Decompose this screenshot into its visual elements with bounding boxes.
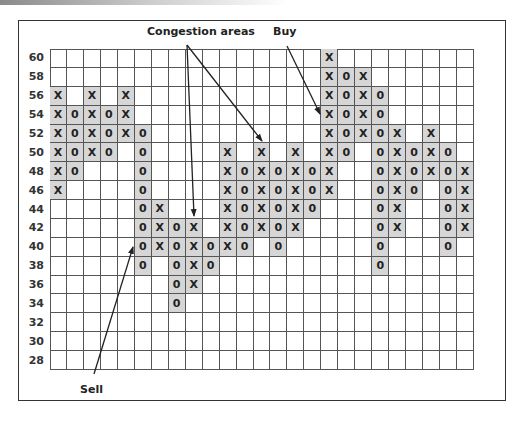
grid-cell <box>423 257 440 276</box>
grid-cell <box>270 125 287 144</box>
grid-cell <box>270 49 287 68</box>
grid-cell <box>304 87 321 106</box>
grid-cell <box>440 87 457 106</box>
grid-cell <box>84 257 101 276</box>
o-box: 0 <box>135 238 152 257</box>
grid-cell <box>118 219 135 238</box>
grid-cell <box>237 276 254 295</box>
grid-cell <box>389 351 406 370</box>
grid-cell <box>270 351 287 370</box>
grid-cell <box>457 49 474 68</box>
o-box: 0 <box>135 219 152 238</box>
x-box: X <box>457 219 474 238</box>
grid-cell <box>220 125 237 144</box>
grid-cell <box>423 332 440 351</box>
grid-cell <box>118 200 135 219</box>
grid-cell <box>304 332 321 351</box>
grid-cell <box>254 125 271 144</box>
grid-cell <box>152 87 169 106</box>
grid-cell <box>270 313 287 332</box>
grid-cell <box>50 219 67 238</box>
grid-cell <box>50 257 67 276</box>
grid-cell <box>304 313 321 332</box>
grid-cell <box>169 332 186 351</box>
o-box: 0 <box>135 257 152 276</box>
grid-cell <box>372 49 389 68</box>
grid-cell <box>457 257 474 276</box>
grid-cell <box>84 219 101 238</box>
y-tick-label: 30 <box>18 335 44 348</box>
grid-cell <box>118 332 135 351</box>
grid-cell <box>135 294 152 313</box>
grid-cell <box>321 351 338 370</box>
grid-cell <box>50 68 67 87</box>
grid-cell <box>406 294 423 313</box>
o-box: 0 <box>440 200 457 219</box>
o-box: 0 <box>406 162 423 181</box>
x-box: X <box>457 200 474 219</box>
grid-cell <box>50 294 67 313</box>
o-box: 0 <box>338 125 355 144</box>
grid-cell <box>254 257 271 276</box>
grid-cell <box>186 200 203 219</box>
grid-cell <box>135 313 152 332</box>
grid-cell <box>423 219 440 238</box>
grid-cell <box>457 294 474 313</box>
grid-cell <box>152 68 169 87</box>
x-box: X <box>50 125 67 144</box>
x-box: X <box>118 87 135 106</box>
grid-cell <box>423 68 440 87</box>
grid-cell <box>440 257 457 276</box>
x-box: X <box>389 125 406 144</box>
grid-cell <box>50 200 67 219</box>
grid-cell <box>287 68 304 87</box>
x-box: X <box>152 200 169 219</box>
grid-cell <box>220 68 237 87</box>
grid-cell <box>304 125 321 144</box>
grid-cell <box>423 276 440 295</box>
grid-cell <box>423 294 440 313</box>
grid-cell <box>84 49 101 68</box>
grid-cell <box>101 49 118 68</box>
grid-cell <box>270 276 287 295</box>
x-box: X <box>423 162 440 181</box>
grid-cell <box>321 238 338 257</box>
o-box: 0 <box>169 276 186 295</box>
x-box: X <box>457 181 474 200</box>
grid-cell <box>203 219 220 238</box>
grid-cell <box>135 332 152 351</box>
x-box: X <box>50 87 67 106</box>
x-box: X <box>50 162 67 181</box>
grid-cell <box>152 332 169 351</box>
grid-cell <box>287 125 304 144</box>
grid-cell <box>118 257 135 276</box>
x-box: X <box>389 181 406 200</box>
grid-cell <box>203 294 220 313</box>
grid-cell <box>101 332 118 351</box>
x-box: X <box>254 219 271 238</box>
sell-label: Sell <box>80 383 103 396</box>
grid-cell <box>101 87 118 106</box>
grid-cell <box>321 200 338 219</box>
grid-cell <box>118 351 135 370</box>
o-box: 0 <box>440 181 457 200</box>
grid-cell <box>457 276 474 295</box>
grid-cell <box>135 49 152 68</box>
grid-cell <box>186 294 203 313</box>
grid-cell <box>186 313 203 332</box>
grid-cell <box>270 143 287 162</box>
buy-label: Buy <box>273 25 296 38</box>
x-box: X <box>84 143 101 162</box>
grid-cell <box>457 238 474 257</box>
grid-cell <box>186 143 203 162</box>
o-box: 0 <box>67 162 84 181</box>
grid-cell <box>169 49 186 68</box>
grid-cell <box>372 68 389 87</box>
grid-cell <box>50 332 67 351</box>
grid-cell <box>270 332 287 351</box>
x-box: X <box>457 162 474 181</box>
grid-cell <box>440 106 457 125</box>
grid-cell <box>203 87 220 106</box>
grid-cell <box>389 332 406 351</box>
grid-cell <box>169 181 186 200</box>
